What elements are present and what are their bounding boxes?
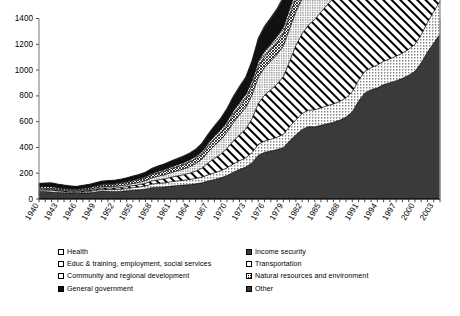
y-axis-tick-label: 600 <box>19 117 33 126</box>
white-box-icon <box>58 249 64 255</box>
cross-hatch-box-icon <box>58 273 64 279</box>
chart-container: 0200400600800100012001400 19401943194619… <box>0 0 460 316</box>
fine-dot-box-icon <box>58 261 64 267</box>
y-axis-tick-label: 1200 <box>15 40 34 49</box>
y-axis-tick-label: 1400 <box>15 14 34 23</box>
x-axis-tick-label: 1970 <box>211 201 229 222</box>
legend-item-community-regional[interactable]: Community and regional development <box>58 272 246 280</box>
x-axis-tick-label: 2003 <box>418 201 436 222</box>
legend-label: General government <box>67 285 133 293</box>
y-axis-tick-label: 1000 <box>15 66 34 75</box>
black-box-icon <box>58 286 64 292</box>
x-axis-tick-label: 1973 <box>230 201 248 222</box>
x-axis-tick-label: 1991 <box>343 201 361 222</box>
x-axis-tick-label: 1946 <box>61 201 79 222</box>
legend-item-income-security[interactable]: Income security <box>246 248 458 256</box>
x-axis-tick-label: 1961 <box>155 201 173 222</box>
legend-label: Transportation <box>255 260 302 268</box>
legend-label: Other <box>255 285 273 293</box>
x-axis-tick-label: 1955 <box>117 201 135 222</box>
dark-box-icon <box>246 249 252 255</box>
x-axis-tick-label: 1967 <box>193 201 211 222</box>
legend-item-natural-resources[interactable]: Natural resources and environment <box>246 272 458 280</box>
x-axis-tick-label: 1988 <box>324 201 342 222</box>
diag-box-icon <box>246 273 252 279</box>
x-axis-tick-label: 1943 <box>42 201 60 222</box>
x-axis-tick-label: 1940 <box>23 201 41 222</box>
x-axis-tick-label: 1994 <box>362 201 380 222</box>
y-axis-tick-label: 200 <box>19 169 33 178</box>
x-axis-tick-label: 1964 <box>174 201 192 222</box>
x-axis-tick-label: 1958 <box>136 201 154 222</box>
x-axis-tick-label: 2000 <box>399 201 417 222</box>
dark-box-icon <box>246 286 252 292</box>
x-axis-tick-label: 1979 <box>268 201 286 222</box>
y-axis-tick-label: 800 <box>19 91 33 100</box>
x-axis-tick-label: 1952 <box>99 201 117 222</box>
chart-legend: Health Income security Educ & training, … <box>58 246 458 295</box>
legend-label: Income security <box>255 248 306 256</box>
legend-item-general-government[interactable]: General government <box>58 285 246 293</box>
x-axis-tick-label: 1976 <box>249 201 267 222</box>
x-axis-tick-label: 1985 <box>305 201 323 222</box>
legend-item-health[interactable]: Health <box>58 248 246 256</box>
dot-box-icon <box>246 261 252 267</box>
legend-item-other[interactable]: Other <box>246 285 458 293</box>
legend-item-educ-training[interactable]: Educ & training, employment, social serv… <box>58 260 246 268</box>
x-axis-tick-label: 1982 <box>287 201 305 222</box>
legend-label: Community and regional development <box>67 272 189 280</box>
legend-item-transportation[interactable]: Transportation <box>246 260 458 268</box>
legend-label: Health <box>67 248 88 256</box>
legend-label: Natural resources and environment <box>255 272 368 280</box>
x-axis-tick-label: 1949 <box>80 201 98 222</box>
x-axis-tick-label: 1997 <box>381 201 399 222</box>
y-axis-tick-label: 400 <box>19 143 33 152</box>
legend-label: Educ & training, employment, social serv… <box>67 260 211 268</box>
